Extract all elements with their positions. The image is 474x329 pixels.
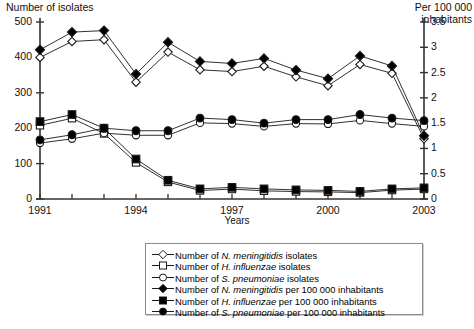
legend-symbol (152, 250, 174, 261)
legend-item[interactable]: Number of N. meningitidis isolates (152, 249, 422, 260)
legend-symbol (152, 261, 174, 272)
data-point-filled-square (132, 155, 140, 163)
data-point-filled-diamond (227, 59, 236, 68)
data-point-filled-square (388, 185, 396, 193)
legend-item[interactable]: Number of H. influenzae per 100 000 inha… (152, 295, 422, 306)
data-point-filled-square (196, 185, 204, 193)
data-point-filled-diamond (355, 51, 364, 60)
legend-label: Number of N. meningitidis isolates (175, 250, 317, 261)
legend-marker-filled-circle (152, 306, 174, 317)
legend-marker-open-circle (152, 272, 174, 283)
legend-label: Number of S. pneumoniae per 100 000 inha… (175, 307, 385, 318)
legend-item[interactable]: Number of H. influenzae isolates (152, 260, 422, 271)
data-point-filled-square (164, 176, 172, 184)
legend-symbol (152, 273, 174, 284)
data-point-filled-square (292, 186, 300, 194)
data-point-filled-circle (260, 119, 268, 127)
legend-marker-filled-diamond (152, 283, 174, 294)
chart-legend: Number of N. meningitidis isolatesNumber… (145, 243, 423, 315)
right-axis-tick-label: 3.5 (431, 15, 461, 27)
legend-species-name: N. meningitidis (221, 284, 282, 295)
data-point-open-diamond (196, 66, 204, 74)
right-axis-tick-label: 2 (431, 91, 461, 103)
legend-species-name: S. pneumoniae (221, 273, 284, 284)
right-axis-tick-label: 3 (431, 40, 461, 52)
left-axis-tick-label: 500 (2, 15, 32, 27)
legend-symbol (152, 307, 174, 318)
data-point-filled-square (324, 187, 332, 195)
data-point-filled-square (36, 118, 44, 126)
right-axis-tick-label: 0 (431, 192, 461, 204)
data-point-filled-circle (356, 111, 364, 119)
legend-label: Number of H. influenzae isolates (175, 261, 311, 272)
legend-label: Number of N. meningitidis per 100 000 in… (175, 284, 383, 295)
right-axis-tick-label: 2.5 (431, 66, 461, 78)
data-point-filled-square (68, 111, 76, 119)
data-point-filled-circle (420, 117, 428, 125)
legend-species-name: H. influenzae (221, 295, 276, 306)
legend-species-name: S. pneumoniae (221, 307, 284, 318)
data-point-filled-circle (36, 136, 44, 144)
legend-label: Number of S. pneumoniae isolates (175, 273, 319, 284)
right-axis-tick-label: 0.5 (431, 167, 461, 179)
data-point-filled-square (228, 184, 236, 192)
data-point-filled-diamond (195, 57, 204, 66)
data-point-filled-diamond (35, 45, 44, 54)
data-point-filled-circle (68, 131, 76, 139)
data-point-filled-circle (292, 116, 300, 124)
legend-marker-open-diamond (152, 249, 174, 260)
data-point-filled-diamond (387, 61, 396, 70)
data-point-filled-circle (196, 114, 204, 122)
data-point-filled-circle (228, 116, 236, 124)
data-point-filled-circle (132, 127, 140, 135)
data-point-filled-square (356, 188, 364, 196)
data-point-filled-circle (100, 124, 108, 132)
data-point-filled-diamond (259, 54, 268, 63)
data-point-filled-circle (164, 127, 172, 135)
legend-item[interactable]: Number of S. pneumoniae isolates (152, 272, 422, 283)
legend-symbol (152, 296, 174, 307)
right-axis-tick-label: 1 (431, 141, 461, 153)
legend-symbol (152, 284, 174, 295)
legend-label: Number of H. influenzae per 100 000 inha… (175, 295, 377, 306)
left-axis-tick-label: 400 (2, 50, 32, 62)
left-axis-tick-label: 100 (2, 157, 32, 169)
data-point-filled-diamond (323, 74, 332, 83)
data-point-filled-diamond (99, 26, 108, 35)
legend-species-name: N. meningitidis (221, 250, 282, 261)
data-point-open-diamond (356, 60, 364, 68)
data-point-open-diamond (68, 37, 76, 45)
legend-marker-filled-square (152, 295, 174, 306)
left-axis-tick-label: 0 (2, 192, 32, 204)
legend-marker-open-square (152, 260, 174, 271)
data-point-filled-square (420, 184, 428, 192)
data-point-filled-diamond (291, 65, 300, 74)
data-point-filled-diamond (67, 28, 76, 37)
left-axis-tick-label: 300 (2, 86, 32, 98)
data-point-filled-square (260, 185, 268, 193)
data-point-open-diamond (100, 36, 108, 44)
left-axis-tick-label: 200 (2, 121, 32, 133)
x-axis-title: Years (0, 215, 474, 227)
legend-species-name: H. influenzae (221, 261, 276, 272)
legend-item[interactable]: Number of N. meningitidis per 100 000 in… (152, 283, 422, 294)
chart-figure: Number of isolates Per 100 000 inhabitan… (0, 0, 474, 329)
legend-item[interactable]: Number of S. pneumoniae per 100 000 inha… (152, 306, 422, 317)
data-point-filled-circle (388, 114, 396, 122)
data-point-filled-circle (324, 116, 332, 124)
right-axis-tick-label: 1.5 (431, 116, 461, 128)
